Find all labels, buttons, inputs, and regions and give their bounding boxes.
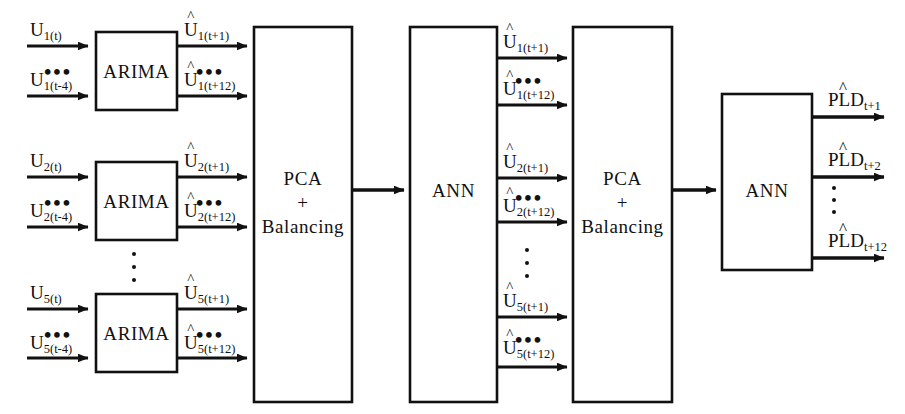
block-label-ann-1: ANN	[410, 180, 497, 202]
signal-label-u2-t4: U2(t-4)	[30, 201, 72, 224]
signal-label-u2-t: U2(t)	[30, 151, 62, 174]
block-label-pca-1: PCA + Balancing	[254, 167, 352, 238]
hat-glyph: ^	[187, 190, 194, 205]
hat-glyph: ^	[506, 185, 513, 200]
block-label-ann-2: ANN	[722, 180, 812, 202]
pca1-line-1: PCA	[254, 167, 352, 191]
signal-label-uhat5-t1: ^U5(t+1)	[184, 283, 229, 306]
block-label-arima-2: ARIMA	[96, 191, 177, 213]
signal-label-uhat2-t12: ^U2(t+12)	[184, 201, 235, 224]
signal-label-uhat5-t12: ^U5(t+12)	[184, 333, 235, 356]
hat-glyph: ^	[187, 59, 194, 74]
signal-label-u1-t: U1(t)	[30, 20, 62, 43]
pca2-line-2: +	[573, 191, 672, 215]
hat-glyph: ^	[187, 272, 194, 287]
block-label-arima-5: ARIMA	[96, 323, 177, 345]
ellipsis-vertical-ann1-column	[525, 248, 529, 287]
signal-label-u5-t: U5(t)	[30, 283, 62, 306]
hat-glyph: ^	[187, 140, 194, 155]
ellipsis-vertical-pld-column	[832, 186, 836, 222]
signal-label-mid-uhat5-t1: ^U5(t+1)	[503, 291, 548, 314]
signal-label-uhat1-t12: ^U1(t+12)	[184, 70, 235, 93]
block-label-arima-1: ARIMA	[96, 61, 177, 83]
hat-glyph: ^	[506, 68, 513, 83]
signal-label-pld-t1: ^PLDt+1	[828, 90, 881, 113]
signal-label-pld-t2: ^PLDt+2	[828, 150, 881, 173]
hat-glyph: ^	[506, 327, 513, 342]
pca2-line-3: Balancing	[573, 215, 672, 239]
hat-glyph: ^	[839, 79, 847, 96]
signal-label-uhat2-t1: ^U2(t+1)	[184, 151, 229, 174]
signal-label-mid-uhat2-t12: ^U2(t+12)	[503, 196, 554, 219]
block-ann-1	[410, 27, 497, 402]
hat-glyph: ^	[187, 322, 194, 337]
hat-glyph: ^	[839, 139, 847, 156]
pca2-line-1: PCA	[573, 167, 672, 191]
hat-glyph: ^	[506, 141, 513, 156]
signal-label-mid-uhat5-t12: ^U5(t+12)	[503, 338, 554, 361]
signal-label-mid-uhat1-t12: ^U1(t+12)	[503, 79, 554, 102]
hat-glyph: ^	[187, 9, 194, 24]
signal-label-u5-t4: U5(t-4)	[30, 333, 72, 356]
ellipsis-vertical-arima-column	[132, 252, 136, 291]
pca1-line-2: +	[254, 191, 352, 215]
hat-glyph: ^	[506, 21, 513, 36]
diagram-canvas: ARIMA ARIMA ARIMA PCA + Balancing ANN PC…	[0, 0, 905, 414]
signal-label-uhat1-t1: ^U1(t+1)	[184, 20, 229, 43]
signal-label-mid-uhat1-t1: ^U1(t+1)	[503, 32, 548, 55]
signal-label-mid-uhat2-t1: ^U2(t+1)	[503, 152, 548, 175]
signal-label-u1-t4: U1(t-4)	[30, 70, 72, 93]
hat-glyph: ^	[839, 220, 847, 237]
hat-glyph: ^	[506, 280, 513, 295]
pca1-line-3: Balancing	[254, 215, 352, 239]
block-label-pca-2: PCA + Balancing	[573, 167, 672, 238]
signal-label-pld-t12: ^PLDt+12	[828, 231, 887, 254]
